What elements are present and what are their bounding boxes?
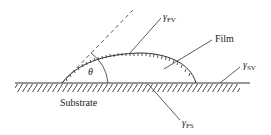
gamma-fv-label: γFV — [163, 11, 176, 24]
film-leader — [164, 40, 212, 69]
theta-label: θ — [88, 66, 93, 77]
gamma-fv-leader — [130, 18, 161, 53]
film-surface-hatching — [66, 53, 190, 81]
substrate-label: Substrate — [60, 97, 98, 108]
gamma-sv-leader — [220, 67, 240, 83]
film-droplet — [62, 53, 196, 83]
tangent-dashed-line — [62, 10, 133, 83]
gamma-sv-label: γSV — [243, 59, 256, 72]
substrate-hatching — [15, 84, 240, 92]
film-label: Film — [215, 33, 234, 44]
gamma-fs-label: γFS — [182, 117, 194, 130]
contact-angle-diagram: θ γFV Film γSV γFS Substrate — [0, 0, 271, 135]
